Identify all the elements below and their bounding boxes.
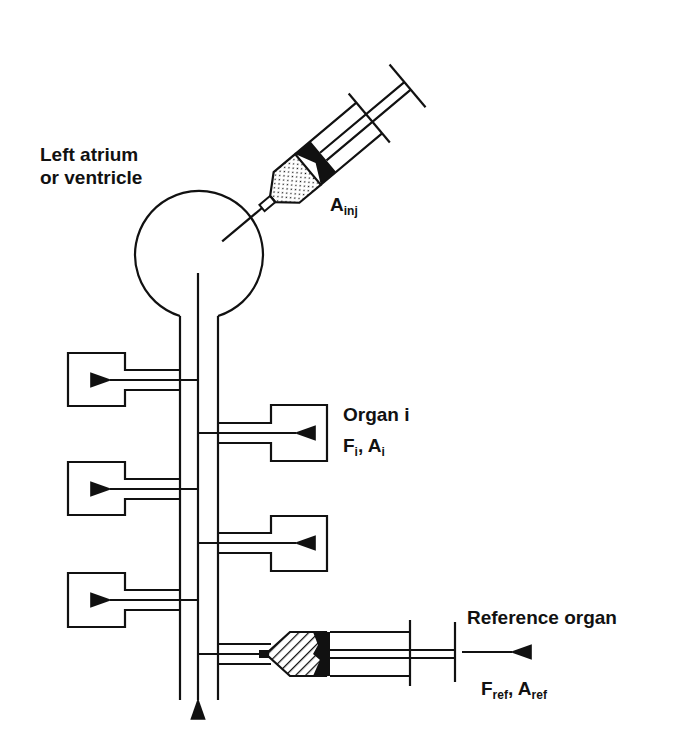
reference-organ-label: Reference organ (467, 607, 617, 628)
reference-vars: Fref, Aref (481, 678, 548, 702)
organ-i-label: Organ i (343, 404, 410, 425)
withdrawal-syringe (198, 620, 512, 686)
organ-left-1 (68, 353, 198, 406)
chamber-label-line2: or ventricle (40, 167, 142, 188)
injection-syringe (202, 61, 429, 266)
diagram-canvas: Left atrium or ventricle Ainj Organ i Fi… (0, 0, 699, 743)
injection-label: Ainj (330, 194, 358, 218)
chamber-label-line1: Left atrium (40, 144, 138, 165)
organ-i-vars: Fi, Ai (343, 435, 385, 459)
organ-left-3 (68, 573, 198, 627)
organ-left-2 (68, 462, 198, 515)
